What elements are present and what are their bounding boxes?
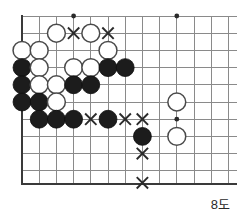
black-stone[interactable] bbox=[13, 59, 31, 77]
black-stone[interactable] bbox=[65, 110, 83, 128]
star-point bbox=[71, 14, 76, 19]
black-stone[interactable] bbox=[47, 110, 65, 128]
black-stone[interactable] bbox=[99, 110, 117, 128]
white-stone[interactable] bbox=[47, 24, 65, 42]
white-stone[interactable] bbox=[168, 93, 186, 111]
go-diagram-root: 8도 bbox=[0, 0, 237, 215]
white-stone[interactable] bbox=[30, 76, 48, 94]
black-stone[interactable] bbox=[82, 76, 100, 94]
white-stone[interactable] bbox=[168, 127, 186, 145]
white-stone[interactable] bbox=[30, 41, 48, 59]
white-stone[interactable] bbox=[99, 41, 117, 59]
black-stone[interactable] bbox=[116, 59, 134, 77]
go-board[interactable] bbox=[0, 0, 237, 195]
white-stone[interactable] bbox=[65, 59, 83, 77]
diagram-caption: 8도 bbox=[211, 194, 231, 213]
black-stone[interactable] bbox=[65, 76, 83, 94]
go-board-canvas[interactable] bbox=[0, 0, 237, 195]
black-stone[interactable] bbox=[30, 93, 48, 111]
black-stone[interactable] bbox=[30, 110, 48, 128]
white-stone[interactable] bbox=[30, 59, 48, 77]
black-stone[interactable] bbox=[99, 59, 117, 77]
black-stone[interactable] bbox=[13, 76, 31, 94]
white-stone[interactable] bbox=[47, 76, 65, 94]
white-stone[interactable] bbox=[82, 24, 100, 42]
white-stone[interactable] bbox=[47, 93, 65, 111]
white-stone[interactable] bbox=[82, 59, 100, 77]
black-stone[interactable] bbox=[13, 93, 31, 111]
star-point bbox=[174, 14, 179, 19]
star-point bbox=[174, 117, 179, 122]
black-stone[interactable] bbox=[133, 127, 151, 145]
white-stone[interactable] bbox=[13, 41, 31, 59]
